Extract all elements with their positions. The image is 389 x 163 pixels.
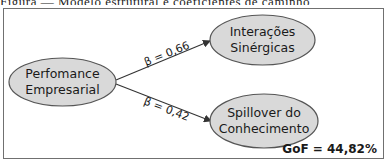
edge-performance-to-interacoes: β = 0,66 <box>116 39 210 80</box>
node-label-line2: Conhecimento <box>219 121 310 136</box>
node-label-line1: Spillover do <box>227 105 301 120</box>
node-perfomance-empresarial: Perfomance Empresarial <box>9 58 116 106</box>
edge-label-beta-042: β = 0,42 <box>142 95 191 124</box>
node-label-line1: Interações <box>230 24 296 39</box>
structural-model-diagram: β = 0,66 β = 0,42 Perfomance Empresarial… <box>0 0 389 163</box>
node-label-line2: Empresarial <box>25 82 99 97</box>
node-label-line2: Sinérgicas <box>230 40 294 55</box>
node-interacoes-sinergicas: Interações Sinérgicas <box>210 15 315 65</box>
edge-label-beta-066: β = 0,66 <box>142 39 191 69</box>
node-label-line1: Perfomance <box>25 66 100 81</box>
node-spillover-do-conhecimento: Spillover do Conhecimento <box>210 94 318 148</box>
gof-fit-index: GoF = 44,82% <box>282 142 377 156</box>
edge-performance-to-spillover: β = 0,42 <box>116 84 211 124</box>
